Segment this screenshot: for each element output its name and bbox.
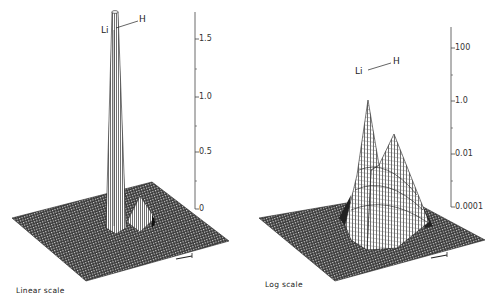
scale-bar: [431, 255, 447, 258]
li-spike: [106, 12, 126, 234]
z-tick-1: 0.5: [199, 147, 212, 156]
bond-line: [116, 21, 138, 28]
bond-line: [368, 63, 391, 70]
atom-label-h: H: [393, 56, 400, 66]
scale-bar: [176, 256, 192, 259]
panel-caption: Linear scale: [16, 286, 65, 295]
log-scale-panel: Li H 0.0001 0.01 1.0 100 Log scale: [247, 0, 494, 304]
z-tick-0: 0: [199, 204, 204, 213]
linear-scale-panel: Li H 0 0.5 1.0 1.5 Linear scale: [0, 0, 247, 304]
z-tick-2: 1.0: [455, 96, 468, 105]
z-tick-3: 100: [455, 43, 470, 52]
z-tick-3: 1.5: [199, 34, 212, 43]
z-tick-2: 1.0: [199, 92, 212, 101]
atom-label-h: H: [139, 14, 146, 24]
panel-caption: Log scale: [265, 280, 303, 289]
atom-label-li: Li: [101, 25, 109, 35]
atom-label-li: Li: [355, 66, 363, 76]
z-tick-0: 0.0001: [455, 202, 483, 211]
z-tick-1: 0.01: [455, 149, 473, 158]
